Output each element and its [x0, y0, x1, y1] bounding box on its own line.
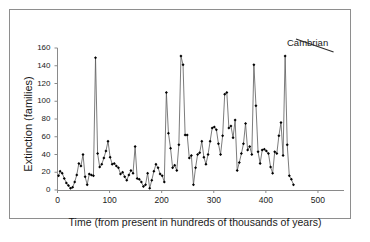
y-tick-label: 60 [29, 132, 51, 141]
x-tick-label: 300 [199, 195, 229, 205]
x-tick-label: 0 [43, 195, 73, 205]
y-tick-label: 80 [29, 114, 51, 123]
y-tick-label: 100 [29, 96, 51, 105]
extinction-line-chart [0, 0, 370, 242]
y-tick-label: 20 [29, 167, 51, 176]
annotation-leader-line [296, 39, 334, 52]
data-series-line [59, 56, 294, 188]
x-tick-label: 100 [95, 195, 125, 205]
y-tick-label: 120 [29, 79, 51, 88]
y-tick-label: 160 [29, 43, 51, 52]
y-tick-label: 40 [29, 150, 51, 159]
y-tick-label: 140 [29, 61, 51, 70]
x-tick-label: 500 [303, 195, 333, 205]
x-tick-label: 400 [251, 195, 281, 205]
x-tick-label: 200 [147, 195, 177, 205]
y-tick-label: 0 [29, 185, 51, 194]
